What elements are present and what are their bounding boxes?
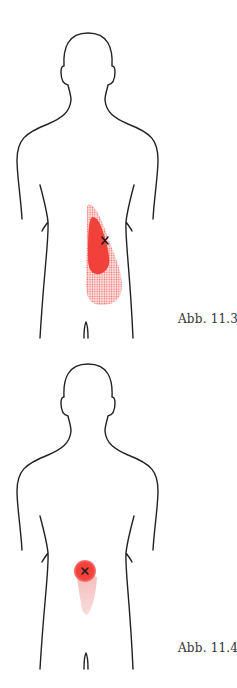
- figure-caption: Abb. 11.3: [178, 312, 237, 326]
- pain-primary-zone: [88, 217, 109, 274]
- body-outline: [17, 364, 158, 669]
- figure-caption: Abb. 11.4: [178, 641, 237, 655]
- figure-11-4: Abb. 11.4: [0, 331, 237, 671]
- body-outline-illustration: [0, 331, 237, 688]
- figure-11-3: Abb. 11.3: [0, 0, 237, 340]
- body-outline-illustration: [0, 0, 237, 340]
